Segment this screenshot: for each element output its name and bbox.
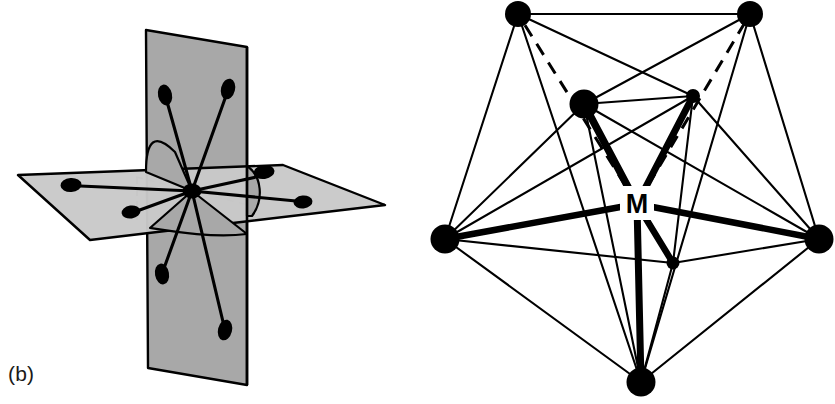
edge-C-H <box>584 104 641 382</box>
edge-B-C <box>584 14 750 104</box>
vertex-inner-left <box>570 90 599 119</box>
edge-G-H <box>641 263 673 382</box>
vertex-left <box>431 225 460 254</box>
bond-M-H <box>637 204 641 382</box>
edge-A-E <box>445 14 518 239</box>
panel-b-label: (b) <box>8 362 34 386</box>
edge-B-H <box>641 14 750 382</box>
vertex-top-left <box>505 1 531 27</box>
vertex-right <box>805 225 834 254</box>
panel-b: (b) <box>0 0 418 404</box>
metal-center-label: M <box>626 189 649 219</box>
edge-C-D <box>584 96 693 104</box>
panel-c: M (c) <box>418 0 835 404</box>
vertex-top-right <box>737 1 763 27</box>
panel-c-diagram: M <box>418 0 835 404</box>
panel-b-diagram <box>0 0 418 404</box>
figure-root: (b) <box>0 0 835 404</box>
vertex-inner-lower <box>667 257 680 270</box>
central-atom <box>183 184 202 199</box>
vertex-bottom <box>627 368 656 397</box>
edge-E-H <box>445 239 641 382</box>
edge-A-D <box>518 14 693 96</box>
edge-F-G <box>673 239 819 263</box>
vertex-inner-right <box>686 89 700 103</box>
hidden-bonds-to-metal <box>518 14 750 204</box>
